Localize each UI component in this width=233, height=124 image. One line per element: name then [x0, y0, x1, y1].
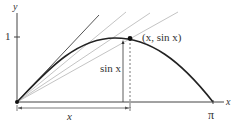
- bracket-right-arrow-icon: [125, 107, 129, 110]
- origin-marker: [15, 100, 19, 104]
- pi-label: π: [208, 109, 214, 121]
- y-tick-label: 1: [5, 31, 11, 42]
- x-axis-label: x: [226, 97, 230, 107]
- sine-secant-diagram: y 1 x π (x, sin x) sin x x: [0, 0, 233, 124]
- base-label: x: [67, 111, 72, 122]
- y-axis-label: y: [13, 2, 17, 12]
- point-label: (x, sin x): [142, 32, 181, 43]
- point-marker: [128, 36, 133, 41]
- bracket-left-arrow-icon: [18, 107, 22, 110]
- height-label: sin x: [100, 63, 121, 74]
- secant-lines: [17, 12, 178, 102]
